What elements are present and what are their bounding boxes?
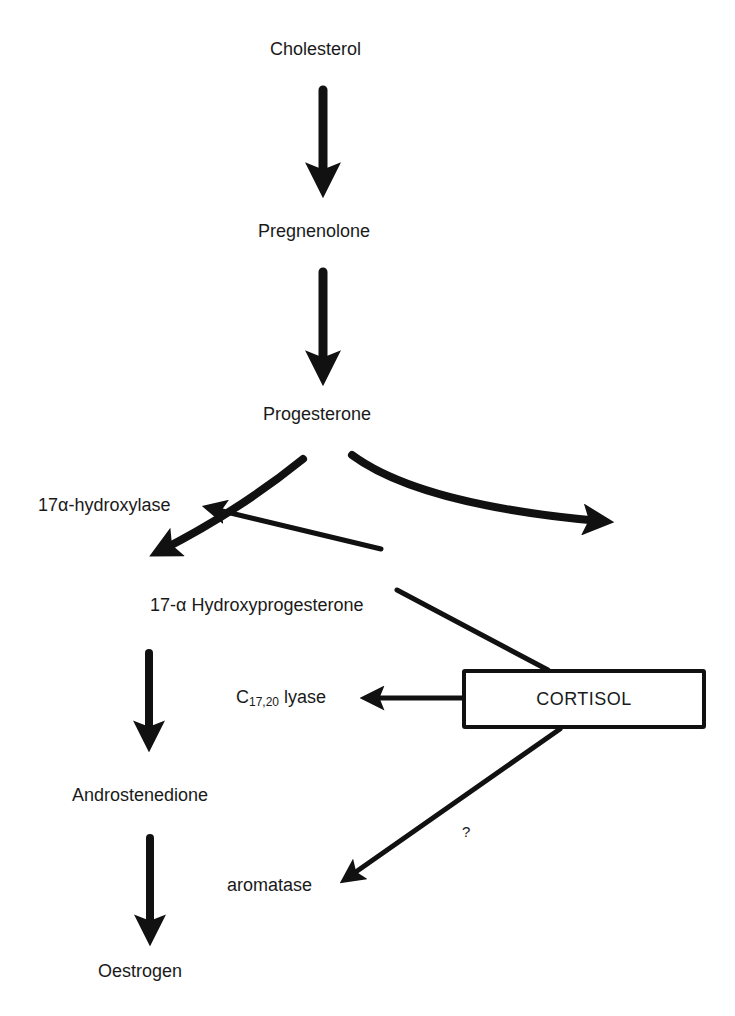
- line-hydroxyprogesterone-cortisol: [397, 590, 548, 670]
- lyase-c: C: [236, 687, 249, 707]
- node-androstenedione: Androstenedione: [72, 786, 208, 804]
- uncertain-mark: ?: [462, 824, 470, 839]
- node-progesterone: Progesterone: [263, 405, 371, 423]
- lyase-subscript: 17,20: [249, 695, 279, 709]
- node-pregnenolone: Pregnenolone: [258, 222, 370, 240]
- arrow-cortisol-hydroxylase: [214, 509, 381, 549]
- arrow-progesterone-hydroxyprogesterone: [162, 459, 303, 550]
- arrow-cortisol-aromatase: [350, 729, 560, 876]
- cortisol-box: CORTISOL: [462, 669, 706, 729]
- node-cortisol: CORTISOL: [536, 689, 632, 710]
- enzyme-c1720-lyase: C17,20 lyase: [236, 688, 326, 708]
- enzyme-17a-hydroxylase: 17α-hydroxylase: [38, 496, 170, 514]
- lyase-suffix: lyase: [279, 687, 326, 707]
- enzyme-aromatase: aromatase: [227, 876, 312, 894]
- arrow-progesterone-right: [352, 455, 600, 521]
- node-oestrogen: Oestrogen: [98, 962, 182, 980]
- node-cholesterol: Cholesterol: [270, 40, 361, 58]
- node-17a-hydroxyprogesterone: 17-α Hydroxyprogesterone: [150, 596, 364, 614]
